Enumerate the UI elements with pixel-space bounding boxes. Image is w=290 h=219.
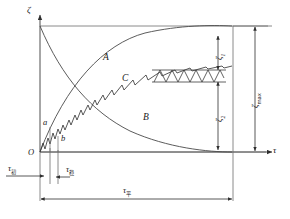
zetamax-label: ζmax xyxy=(251,93,262,108)
point-label-b: b xyxy=(61,134,65,143)
zetamax-dimension-group xyxy=(233,26,272,152)
zeta1-subscript: 1 xyxy=(220,54,226,57)
tau-stable-label: τ稳 xyxy=(66,165,74,176)
sawtooth-zigzag xyxy=(154,70,224,82)
tau-initial-label: τ初 xyxy=(8,164,16,175)
tau-initial-subscript: 初 xyxy=(11,169,16,175)
sawtooth-amplitude-marker-group xyxy=(152,70,226,82)
curve-label-A: A xyxy=(103,53,109,63)
zetamax-subscript: max xyxy=(256,93,262,104)
axes-group xyxy=(40,15,272,152)
origin-label: O xyxy=(28,148,34,157)
bounding-frame-group xyxy=(40,26,268,201)
tau-total-subscript: 平 xyxy=(126,191,131,197)
curve-label-B: B xyxy=(143,113,149,123)
x-axis-label: τ xyxy=(273,146,276,155)
zeta2-subscript: 2 xyxy=(220,116,226,119)
diagram-canvas xyxy=(0,0,290,219)
curve-A-upper xyxy=(40,26,232,152)
zeta1-label: ζ1 xyxy=(215,54,226,60)
zeta1-symbol: ζ xyxy=(214,57,224,60)
curve-B-lower xyxy=(40,26,232,152)
zeta2-label: ζ2 xyxy=(215,116,226,122)
tau-total-label: τ平 xyxy=(123,186,131,197)
y-axis-label: ζ xyxy=(27,6,31,15)
point-label-a: a xyxy=(43,118,47,127)
zetamax-symbol: ζ xyxy=(250,105,260,108)
tau-stable-subscript: 稳 xyxy=(69,170,74,176)
zeta2-symbol: ζ xyxy=(214,119,224,122)
curve-label-C: C xyxy=(122,74,128,84)
figure-container: ζ τ O A B C a b τ初 τ稳 τ平 ζ1 ζ2 ζmax xyxy=(0,0,290,219)
